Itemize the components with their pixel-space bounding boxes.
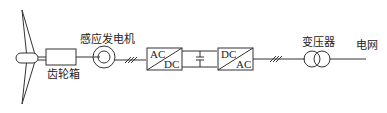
wind-power-diagram: 齿轮箱 感应发电机 AC DC DC AC 变压器 电网 — [0, 0, 387, 113]
generator-label: 感应发电机 — [80, 32, 135, 46]
inverter-bottom-label: AC — [236, 58, 251, 70]
gearbox-box — [46, 49, 76, 65]
capacitor-icon — [196, 51, 204, 67]
rectifier-top-label: AC — [150, 48, 165, 60]
grid-label: 电网 — [356, 39, 378, 52]
transformer-icon — [304, 51, 330, 67]
rectifier-bottom-label: DC — [164, 58, 179, 70]
inverter-top-label: DC — [221, 48, 236, 60]
gearbox-label: 齿轮箱 — [47, 67, 80, 81]
turbine-blade-icon — [16, 10, 46, 104]
transformer-label: 变压器 — [302, 35, 335, 49]
